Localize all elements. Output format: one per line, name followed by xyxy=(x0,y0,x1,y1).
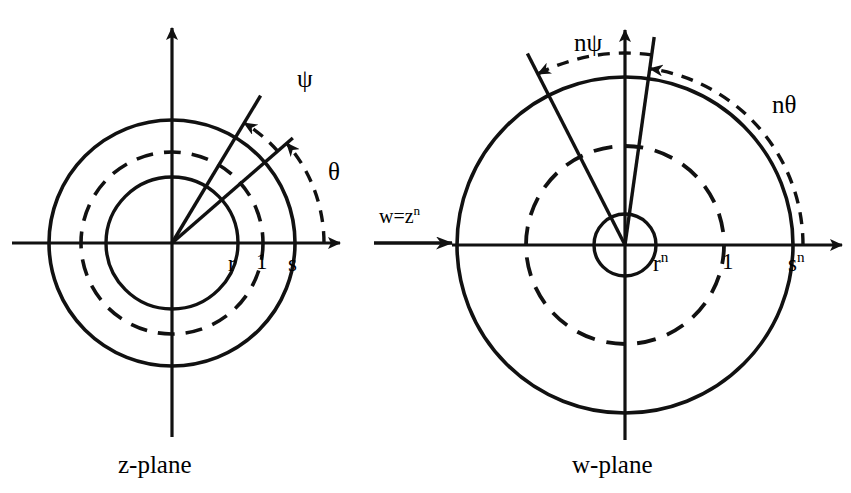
z-plane-group xyxy=(12,28,340,437)
w-plane-tick-label-one: 1 xyxy=(722,250,734,273)
w-plane-caption: w-plane xyxy=(572,452,653,477)
mapping-label-exponent: n xyxy=(414,203,421,218)
z-plane-angle-label-psi: ψ xyxy=(297,66,313,91)
z-plane-tick-label-one: 1 xyxy=(256,250,268,273)
conformal-map-figure: r 1 s ψ θ w=zn rn 1 sn nψ nθ z-plane w-p… xyxy=(0,0,851,493)
w-plane-ray-n-theta xyxy=(625,37,654,245)
w-plane-ray-n-psi xyxy=(527,53,625,245)
z-plane-ray-theta xyxy=(172,138,293,243)
z-plane-tick-label-r: r xyxy=(228,252,236,275)
w-plane-tick-rn-base: r xyxy=(653,251,661,276)
w-plane-tick-sn-base: s xyxy=(788,251,797,276)
z-plane-angle-label-theta: θ xyxy=(328,159,340,184)
w-plane-tick-label-rn: rn xyxy=(653,252,668,275)
w-plane-tick-rn-exponent: n xyxy=(661,248,669,265)
w-plane-angle-label-n-theta: nθ xyxy=(772,92,796,117)
mapping-label-base: w=z xyxy=(379,205,414,227)
diagram-canvas xyxy=(0,0,851,493)
mapping-label: w=zn xyxy=(379,206,420,226)
z-plane-tick-label-s: s xyxy=(288,252,297,275)
w-plane-tick-sn-exponent: n xyxy=(797,248,805,265)
w-plane-tick-label-sn: sn xyxy=(788,252,805,275)
w-plane-angle-label-n-psi: nψ xyxy=(574,30,602,55)
w-plane-arc-n-psi xyxy=(538,53,652,74)
z-plane-ray-psi xyxy=(172,96,261,243)
z-plane-caption: z-plane xyxy=(118,452,192,477)
